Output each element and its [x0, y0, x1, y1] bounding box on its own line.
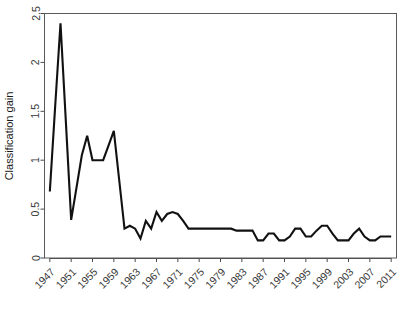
line-chart: 00.511.522.5 194719511955195919631967197… — [0, 0, 420, 309]
y-tick-label: 0 — [30, 255, 42, 261]
y-tick-label: 1 — [30, 157, 42, 163]
chart-background — [0, 0, 420, 309]
y-tick-label: 2 — [30, 59, 42, 65]
chart-container: 00.511.522.5 194719511955195919631967197… — [0, 0, 420, 309]
y-tick-label: 0.5 — [30, 202, 42, 217]
y-tick-label: 1.5 — [30, 104, 42, 119]
y-tick-label: 2.5 — [30, 6, 42, 21]
y-axis-title: Classification gain — [3, 92, 15, 181]
